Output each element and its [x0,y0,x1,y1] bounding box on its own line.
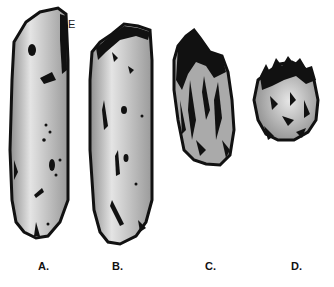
panel-label-c: C. [205,260,216,272]
specimen-b [90,24,152,244]
figure-canvas [0,0,334,287]
annotation-e: E [68,18,75,30]
specimen-c [174,30,234,165]
specimen-d [254,56,318,140]
panel-label-b: B. [112,260,123,272]
panel-label-d: D. [291,260,302,272]
panel-label-a: A. [38,260,49,272]
specimen-a [10,8,68,238]
